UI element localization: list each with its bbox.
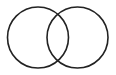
venn-diagram xyxy=(0,0,116,75)
left-circle xyxy=(8,7,69,68)
right-circle xyxy=(47,7,108,68)
